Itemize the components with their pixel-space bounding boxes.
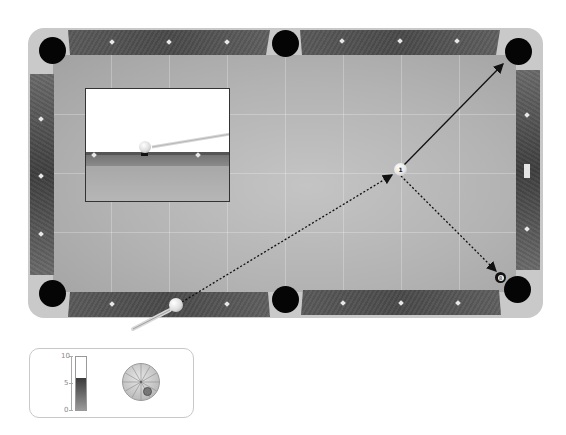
cue-perspective-view: [85, 88, 230, 202]
ball-number: 1: [398, 167, 402, 173]
ball-number: 8: [498, 275, 504, 281]
cue-ball[interactable]: [169, 298, 183, 312]
eight-ball[interactable]: 8: [495, 272, 506, 283]
power-meter-fill: [76, 378, 86, 410]
spin-selector[interactable]: [122, 363, 160, 401]
shot-control-panel: 10 5 0: [29, 348, 194, 418]
power-tick-max: 10: [61, 352, 70, 360]
spin-guide-lines: [123, 364, 159, 400]
object-ball-1[interactable]: 1: [394, 163, 407, 176]
spin-contact-point[interactable]: [143, 387, 152, 396]
power-tick-min: 0: [64, 406, 68, 414]
power-meter[interactable]: [75, 356, 87, 411]
power-tick-mid: 5: [64, 379, 68, 387]
